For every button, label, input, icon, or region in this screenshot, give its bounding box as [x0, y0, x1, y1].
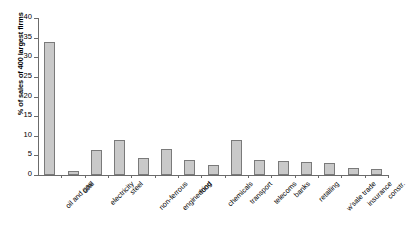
x-axis-tick-label: chemicals — [226, 180, 254, 208]
bar — [301, 162, 312, 175]
bar — [278, 161, 289, 175]
x-axis-tick-mark — [341, 175, 342, 178]
bar — [44, 42, 55, 175]
bar — [208, 165, 219, 175]
y-axis-tick-label: 25 — [24, 72, 32, 80]
y-axis-tick-mark — [34, 57, 38, 58]
plot-area: 0510152025303540 — [38, 18, 388, 175]
bar — [138, 158, 149, 175]
y-axis-tick-label: 5 — [28, 150, 32, 158]
x-axis-tick-mark — [388, 175, 389, 178]
y-axis-tick-label: 0 — [28, 170, 32, 178]
y-axis-tick-mark — [34, 38, 38, 39]
y-axis-tick-label: 10 — [24, 131, 32, 139]
y-axis-tick-mark — [34, 175, 38, 176]
x-axis-tick-mark — [201, 175, 202, 178]
x-axis-tick-mark — [85, 175, 86, 178]
bar — [161, 149, 172, 175]
bar — [348, 168, 359, 175]
y-axis-tick-label: 15 — [24, 111, 32, 119]
bar — [114, 140, 125, 175]
bar — [254, 160, 265, 175]
x-axis-tick-mark — [271, 175, 272, 178]
y-axis-tick-mark — [34, 116, 38, 117]
x-axis-tick-mark — [318, 175, 319, 178]
x-axis-tick-mark — [108, 175, 109, 178]
x-axis-line — [38, 175, 388, 176]
x-axis-tick-mark — [155, 175, 156, 178]
y-axis-tick-label: 40 — [24, 13, 32, 21]
x-axis-tick-mark — [178, 175, 179, 178]
x-axis-tick-mark — [61, 175, 62, 178]
bar — [184, 160, 195, 175]
x-axis-tick-mark — [131, 175, 132, 178]
bar — [91, 150, 102, 175]
x-axis-tick-mark — [295, 175, 296, 178]
y-axis-tick-mark — [34, 18, 38, 19]
bar — [68, 171, 79, 175]
y-axis-tick-label: 35 — [24, 33, 32, 41]
x-axis-tick-label: coal — [81, 180, 95, 194]
y-axis-line — [38, 18, 39, 175]
x-axis-tick-mark — [365, 175, 366, 178]
x-axis-tick-label: food — [198, 180, 213, 195]
y-axis-tick-mark — [34, 155, 38, 156]
bar — [231, 140, 242, 175]
y-axis-tick-mark — [34, 97, 38, 98]
y-axis-tick-label: 30 — [24, 52, 32, 60]
y-axis-tick-mark — [34, 136, 38, 137]
x-axis-tick-mark — [225, 175, 226, 178]
y-axis-tick-mark — [34, 77, 38, 78]
y-axis-tick-label: 20 — [24, 92, 32, 100]
bar — [371, 169, 382, 175]
x-axis-tick-mark — [248, 175, 249, 178]
x-axis-tick-label: retailing — [318, 180, 341, 203]
bar — [324, 163, 335, 175]
